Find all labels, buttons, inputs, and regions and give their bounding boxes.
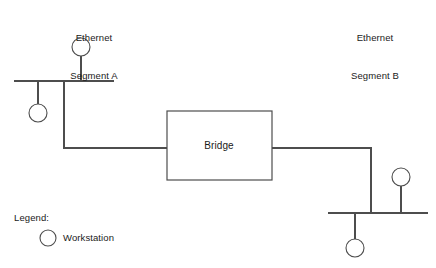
segment-b-workstation-top-icon — [392, 168, 410, 186]
network-diagram-canvas: Ethernet Segment A Ethernet Segment B Br… — [0, 0, 436, 268]
legend-entry-label-workstation: Workstation — [63, 232, 114, 244]
segment-b-caption: Ethernet Segment B — [351, 7, 399, 107]
bridge-label: Bridge — [204, 140, 234, 152]
segment-a-caption: Ethernet Segment A — [70, 7, 117, 107]
bridge-to-segment-b-link — [272, 148, 371, 213]
segment-b-caption-line1: Ethernet — [351, 32, 399, 45]
legend-title: Legend: — [14, 212, 49, 224]
segment-b-workstation-bottom-icon — [346, 239, 364, 257]
segment-a-caption-line1: Ethernet — [70, 32, 117, 45]
legend-workstation-symbol-icon — [40, 230, 56, 246]
segment-a-caption-line2: Segment A — [70, 70, 117, 83]
segment-a-workstation-bottom-icon — [29, 104, 47, 122]
segment-b-caption-line2: Segment B — [351, 70, 399, 83]
